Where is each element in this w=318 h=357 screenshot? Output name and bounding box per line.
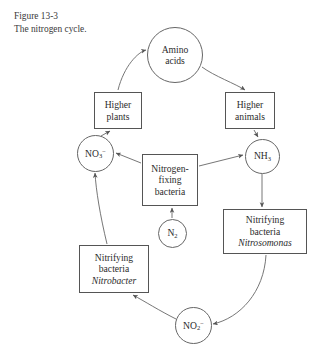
node-higher-plants: Higher plants	[94, 92, 142, 129]
edge-animals-to-ammonia	[254, 130, 258, 137]
node-higher-animals: Higher animals	[225, 92, 275, 129]
nitrite-formula: NO	[183, 320, 197, 331]
nfix-line3: bacteria	[151, 186, 188, 198]
edge-nitrate-to-plants	[101, 131, 110, 136]
amino-acids-line2: acids	[162, 55, 189, 66]
node-amino-acids: Amino acids	[147, 27, 203, 83]
node-nitrite: NO2−	[175, 307, 212, 344]
edge-nfix-to-nitrate	[116, 153, 141, 163]
nitrobacter-genus: Nitrobacter	[92, 275, 136, 287]
nitrosomonas-line2: bacteria	[238, 226, 292, 238]
node-dinitrogen: N2	[158, 219, 187, 248]
higher-animals-line1: Higher	[235, 99, 265, 111]
edge-nitrobacter-to-nitrate	[95, 173, 107, 244]
ammonia-subscript: 3	[268, 154, 271, 161]
higher-animals-line2: animals	[235, 111, 265, 123]
edge-nfix-to-ammonia	[199, 155, 243, 166]
figure-panel: Figure 13-3 The nitrogen cycle.	[0, 0, 318, 357]
higher-plants-line1: Higher	[105, 99, 132, 111]
node-nitrate: NO3−	[77, 135, 114, 172]
node-nitrosomonas: Nitrifying bacteria Nitrosomonas	[223, 209, 307, 254]
node-nitrogen-fixing-bacteria: Nitrogen- fixing bacteria	[142, 154, 198, 206]
higher-plants-line2: plants	[105, 111, 132, 123]
dinitrogen-subscript: 2	[174, 231, 177, 238]
nitrate-formula: NO	[85, 148, 99, 159]
nitrite-charge: −	[200, 320, 204, 327]
node-nitrobacter: Nitrifying bacteria Nitrobacter	[79, 245, 149, 293]
nitrobacter-line2: bacteria	[92, 263, 136, 275]
edge-plants-to-amino	[118, 50, 146, 90]
nitrosomonas-genus: Nitrosomonas	[238, 237, 292, 249]
nitrosomonas-line1: Nitrifying	[238, 214, 292, 226]
edge-nitrosomonas-to-nitrite	[213, 255, 266, 324]
ammonia-formula: NH	[254, 150, 268, 161]
edge-nitrite-to-nitrobacter	[133, 295, 176, 319]
amino-acids-line1: Amino	[162, 44, 189, 55]
nfix-line2: fixing	[151, 174, 188, 186]
nitrate-charge: −	[102, 148, 106, 155]
nitrobacter-line1: Nitrifying	[92, 252, 136, 264]
nfix-line1: Nitrogen-	[151, 163, 188, 175]
edge-amino-to-animals	[202, 67, 245, 90]
node-ammonia: NH3	[245, 139, 280, 174]
